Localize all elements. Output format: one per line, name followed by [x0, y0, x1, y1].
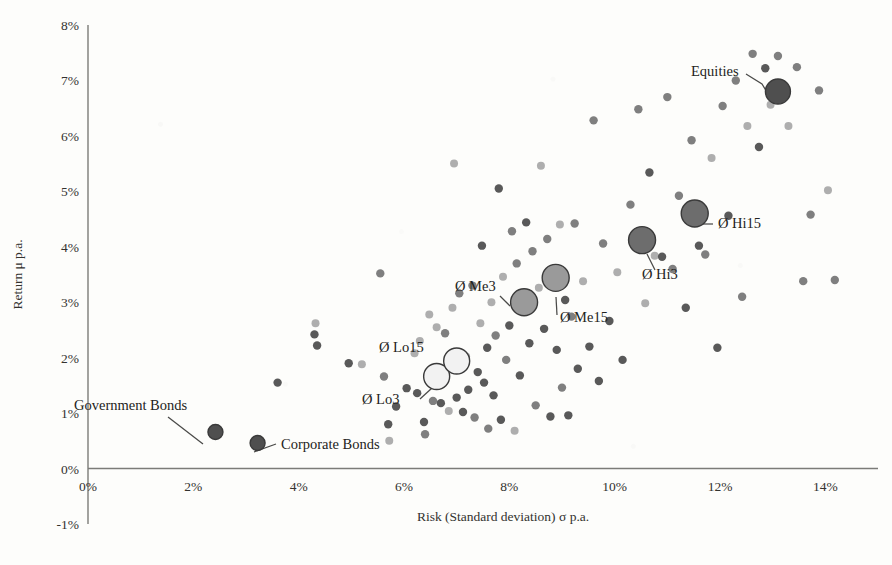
highlight-label-avg-lo3: Ø Lo3 [362, 391, 399, 407]
scatter-point [831, 276, 839, 284]
scatter-point [528, 247, 536, 255]
scatter-point [273, 378, 281, 386]
scatter-point [564, 411, 572, 419]
x-tick-label: 4% [290, 479, 308, 494]
scatter-point [815, 86, 823, 94]
highlight-marker-avg-hi3 [629, 227, 656, 254]
scatter-point [505, 321, 513, 329]
scatter-point [755, 143, 763, 151]
scatter-point [421, 430, 429, 438]
x-tick-label: 10% [602, 479, 627, 494]
scatter-point [491, 331, 499, 339]
scatter-point [540, 325, 548, 333]
x-tick-label: 8% [500, 479, 518, 494]
highlight-label-avg-me15: Ø Me15 [560, 309, 608, 325]
x-tick-label: 0% [79, 479, 97, 494]
scatter-point [806, 210, 814, 218]
y-tick-label: 7% [61, 73, 79, 88]
scatter-point [774, 52, 782, 60]
scatter-point [618, 356, 626, 364]
scatter-chart: -1%0%1%2%3%4%5%6%7%8%0%2%4%6%8%10%12%14%… [0, 0, 892, 565]
highlight-label-corporate-bonds: Corporate Bonds [281, 436, 380, 452]
highlight-markers-layer [208, 79, 790, 451]
scatter-point [824, 186, 832, 194]
scatter-point [513, 259, 521, 267]
scatter-point [511, 427, 519, 435]
scatter-point [718, 102, 726, 110]
y-tick-label: 3% [61, 295, 79, 310]
scatter-point [441, 329, 449, 337]
scatter-point [358, 360, 366, 368]
scatter-point [799, 277, 807, 285]
y-tick-label: 8% [61, 18, 79, 33]
highlight-marker-avg-me3 [511, 289, 538, 316]
scatter-points-layer [273, 50, 839, 445]
scatter-point [452, 393, 460, 401]
scatter-point [380, 372, 388, 380]
highlight-marker-avg-lo15 [444, 348, 470, 374]
scatter-point [553, 346, 561, 354]
scatter-point [499, 273, 507, 281]
scatter-point [682, 304, 690, 312]
leader-line-avg-me15 [556, 297, 557, 315]
highlight-marker-avg-hi15 [681, 200, 708, 227]
x-tick-label: 14% [813, 479, 838, 494]
scatter-point [420, 418, 428, 426]
scatter-point [599, 239, 607, 247]
scatter-point [585, 342, 593, 350]
leader-lines-layer [168, 74, 770, 452]
scatter-point [459, 408, 467, 416]
scatter-point [546, 412, 554, 420]
scatter-point [595, 377, 603, 385]
scatter-point [675, 192, 683, 200]
highlight-label-government-bonds: Government Bonds [74, 397, 188, 413]
scatter-point [687, 136, 695, 144]
scatter-point [464, 386, 472, 394]
scatter-point [641, 299, 649, 307]
scatter-point [470, 413, 478, 421]
scatter-point [483, 343, 491, 351]
scatter-point [713, 343, 721, 351]
highlight-label-equities: Equities [691, 63, 739, 79]
leader-line-avg-me3 [500, 296, 510, 306]
scatter-point [312, 319, 320, 327]
y-tick-label: -1% [57, 517, 80, 532]
scatter-point [313, 341, 321, 349]
highlight-label-avg-hi3: Ø Hi3 [642, 266, 678, 282]
highlight-marker-government-bonds [208, 424, 223, 439]
scatter-point [484, 424, 492, 432]
scatter-point [645, 168, 653, 176]
scatter-point [425, 310, 433, 318]
scatter-point [480, 378, 488, 386]
scatter-point [525, 339, 533, 347]
scatter-point [561, 296, 569, 304]
scatter-point [535, 284, 543, 292]
y-tick-label: 6% [61, 129, 79, 144]
scatter-point [508, 227, 516, 235]
scatter-point [402, 384, 410, 392]
scatter-point [708, 154, 716, 162]
y-tick-label: 4% [61, 240, 79, 255]
scatter-point [448, 304, 456, 312]
scatter-point [385, 437, 393, 445]
scatter-point [613, 268, 621, 276]
x-axis-title: Risk (Standard deviation) σ p.a. [417, 509, 589, 524]
scatter-point [489, 391, 497, 399]
scatter-point [487, 298, 495, 306]
scatter-point [579, 277, 587, 285]
scatter-point [574, 365, 582, 373]
scatter-point [376, 269, 384, 277]
y-tick-label: 0% [61, 462, 79, 477]
scatter-point [522, 218, 530, 226]
scatter-point [570, 219, 578, 227]
scatter-point [543, 235, 551, 243]
scatter-point [748, 50, 756, 58]
scatter-point [743, 122, 751, 130]
axis-layer: -1%0%1%2%3%4%5%6%7%8%0%2%4%6%8%10%12%14%… [10, 18, 878, 532]
scatter-point [445, 407, 453, 415]
highlight-marker-avg-me15 [542, 264, 569, 291]
scatter-point [658, 253, 666, 261]
x-tick-label: 2% [184, 479, 202, 494]
scatter-point [784, 122, 792, 130]
scatter-point [626, 200, 634, 208]
